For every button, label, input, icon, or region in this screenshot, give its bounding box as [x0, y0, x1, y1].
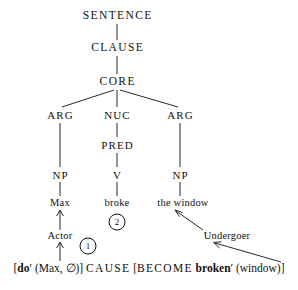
arrowhead-actor-to-max	[57, 210, 64, 216]
node-np-left: NP	[51, 170, 68, 181]
formula-do-arguments: (Max, ∅)]	[32, 262, 83, 274]
node-clause: CLAUSE	[90, 42, 145, 54]
macrorole-actor: Actor	[48, 231, 73, 242]
word-max: Max	[50, 198, 70, 209]
node-pred: PRED	[100, 140, 134, 151]
formula-predicate-broken: broken	[196, 262, 231, 274]
formula-broken-arguments: (window)]	[233, 262, 284, 274]
node-nuc: NUC	[103, 110, 131, 121]
node-arg-left: ARG	[46, 110, 74, 121]
circled-marker-1: 1	[80, 238, 97, 255]
arrowhead-formula-to-actor	[57, 242, 64, 248]
arrowhead-undergoer-to-window	[175, 210, 182, 217]
node-arg-right: ARG	[166, 110, 194, 121]
edge-core-arg-right	[120, 90, 178, 107]
arrowhead-formula-to-undergoer	[214, 242, 222, 248]
formula-operator-cause: CAUSE	[86, 262, 130, 274]
arrow-formula-to-undergoer	[215, 243, 281, 262]
edge-core-arg-left	[62, 90, 114, 107]
tree-edges-and-arrows	[0, 0, 298, 290]
node-np-right: NP	[171, 170, 188, 181]
node-v: V	[112, 170, 122, 181]
rrg-tree-diagram: SENTENCE CLAUSE CORE ARG NUC ARG PRED NP…	[0, 0, 298, 290]
logical-structure-formula: [do′ (Max, ∅)] CAUSE [BECOME broken′ (wi…	[13, 261, 284, 275]
circled-marker-2: 2	[109, 214, 126, 231]
node-sentence: SENTENCE	[81, 10, 152, 22]
word-the-window: the window	[157, 198, 208, 209]
node-core: CORE	[98, 76, 136, 88]
formula-predicate-do: do	[17, 262, 29, 274]
formula-become-open-bracket: [	[130, 262, 137, 274]
macrorole-undergoer: Undergoer	[204, 231, 251, 242]
formula-operator-become: BECOME	[137, 262, 193, 274]
arrow-undergoer-to-window	[176, 211, 203, 230]
word-broke: broke	[105, 198, 130, 209]
